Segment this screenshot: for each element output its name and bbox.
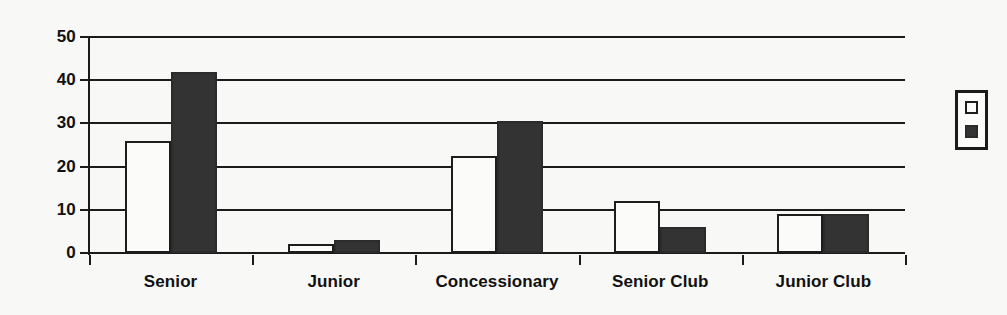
bar-concessionary-series-2 — [497, 121, 543, 253]
bar-junior-club-series-2 — [823, 214, 869, 253]
bar-chart: 01020304050 SeniorJuniorConcessionarySen… — [0, 0, 1007, 315]
y-tick-mark-20 — [80, 166, 89, 168]
legend-item-1[interactable] — [958, 101, 985, 114]
y-tick-label: 40 — [57, 71, 76, 88]
x-axis-label-senior: Senior — [144, 272, 198, 292]
legend-swatch-dark — [965, 125, 978, 138]
y-tick-mark-0 — [80, 252, 89, 254]
bar-junior-series-2 — [334, 240, 380, 253]
chart-screenshot: 01020304050 SeniorJuniorConcessionarySen… — [0, 0, 1007, 315]
plot-area — [89, 37, 905, 253]
bar-senior-club-series-2 — [660, 227, 706, 253]
y-axis-labels: 01020304050 — [0, 0, 76, 315]
x-tick-mark-end-0 — [89, 255, 91, 265]
x-tick-mark — [415, 255, 417, 265]
x-axis-label-concessionary: Concessionary — [435, 272, 558, 292]
y-tick-label: 20 — [57, 158, 76, 175]
y-tick-mark-40 — [80, 79, 89, 81]
x-tick-mark-end-1 — [905, 255, 907, 265]
x-tick-mark — [252, 255, 254, 265]
y-tick-mark-30 — [80, 122, 89, 124]
chart-legend — [955, 90, 988, 150]
y-tick-label: 50 — [57, 28, 76, 45]
bar-senior-club-series-1 — [614, 201, 660, 253]
bar-senior-series-1 — [125, 141, 171, 253]
legend-item-2[interactable] — [958, 125, 985, 138]
bar-concessionary-series-1 — [451, 156, 497, 253]
y-tick-mark-10 — [80, 209, 89, 211]
x-axis-label-junior: Junior — [308, 272, 361, 292]
y-tick-label: 10 — [57, 201, 76, 218]
bar-senior-series-2 — [171, 72, 217, 253]
x-axis-label-junior-club: Junior Club — [776, 272, 872, 292]
bar-junior-series-1 — [288, 244, 334, 253]
x-tick-mark — [742, 255, 744, 265]
y-tick-label: 0 — [66, 244, 76, 261]
x-tick-mark — [579, 255, 581, 265]
x-axis-label-senior-club: Senior Club — [612, 272, 709, 292]
y-tick-mark-50 — [80, 36, 89, 38]
legend-swatch-light — [965, 101, 978, 114]
gridline-50 — [89, 36, 905, 38]
bar-junior-club-series-1 — [777, 214, 823, 253]
y-tick-label: 30 — [57, 114, 76, 131]
